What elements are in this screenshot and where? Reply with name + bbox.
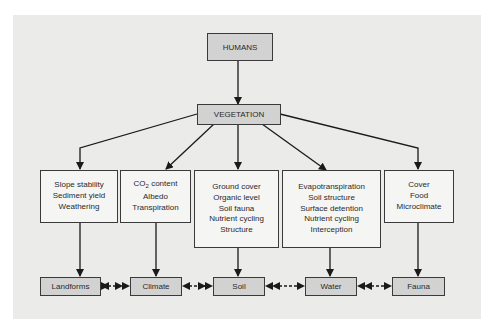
effect-text: Soil structure xyxy=(308,193,355,204)
humans-label: HUMANS xyxy=(223,43,258,52)
effect-text: Sediment yield xyxy=(53,191,105,202)
effect-text: Weathering xyxy=(59,202,100,213)
outcome-climate: Climate xyxy=(130,277,182,296)
effect-text: Organic level xyxy=(213,193,260,204)
effect-text: Structure xyxy=(220,225,252,236)
effect-text: Transpiration xyxy=(132,203,178,214)
effect-text: Evapotranspiration xyxy=(298,182,365,193)
outcome-label: Soil xyxy=(232,282,245,291)
effect-text: Food xyxy=(410,191,428,202)
outcome-water: Water xyxy=(305,277,357,296)
vegetation-box: VEGETATION xyxy=(197,104,281,125)
effect-box-water: Evapotranspiration Soil structure Surfac… xyxy=(282,170,381,248)
effect-text: Nutrient cycling xyxy=(304,214,359,225)
effect-text: Microclimate xyxy=(397,202,442,213)
outcome-label: Water xyxy=(320,282,341,291)
effect-text: Cover xyxy=(408,180,429,191)
effect-box-climate: CO2 content Albedo Transpiration xyxy=(120,170,191,223)
outcome-label: Landforms xyxy=(52,282,90,291)
vegetation-label: VEGETATION xyxy=(214,110,264,119)
outcome-fauna: Fauna xyxy=(392,277,445,296)
humans-box: HUMANS xyxy=(207,33,273,61)
effect-text: Slope stability xyxy=(54,180,103,191)
effect-text: CO2 content xyxy=(134,179,178,192)
effect-box-fauna: Cover Food Microclimate xyxy=(384,170,454,223)
effect-text: Ground cover xyxy=(212,182,260,193)
effect-text: Soil fauna xyxy=(219,204,255,215)
effect-text: Surface detention xyxy=(300,204,363,215)
outcome-label: Climate xyxy=(142,282,169,291)
effect-text: Albedo xyxy=(143,192,168,203)
outcome-label: Fauna xyxy=(407,282,430,291)
effect-text: Interception xyxy=(311,225,353,236)
effect-box-landforms: Slope stability Sediment yield Weatherin… xyxy=(40,170,118,223)
outcome-landforms: Landforms xyxy=(40,277,101,296)
effect-text: Nutrient cycling xyxy=(209,214,264,225)
outcome-soil: Soil xyxy=(213,277,265,296)
effect-box-soil: Ground cover Organic level Soil fauna Nu… xyxy=(194,170,279,248)
